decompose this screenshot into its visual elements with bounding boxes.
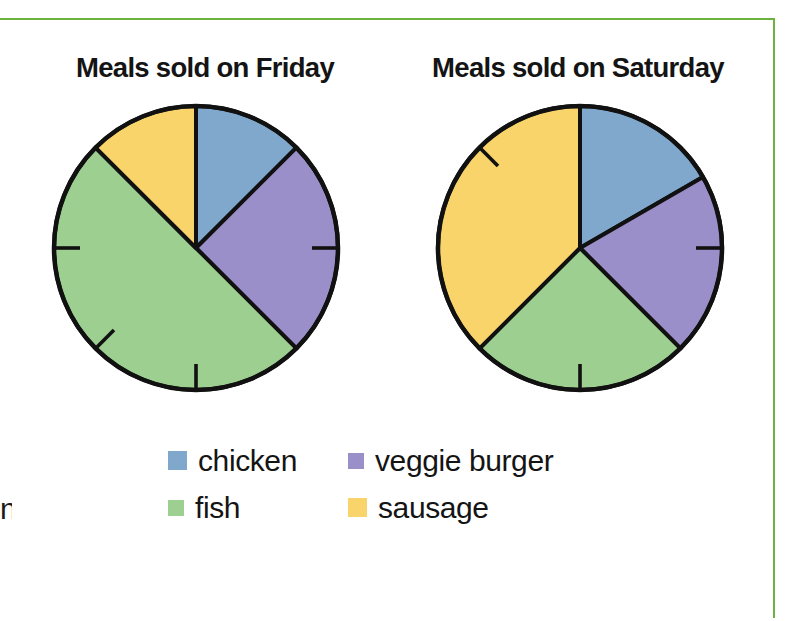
- legend-label-veggie-burger: veggie burger: [375, 444, 553, 478]
- legend-item-fish: fish: [168, 491, 348, 525]
- legend-row: fish sausage: [168, 484, 588, 531]
- legend-swatch-sausage: [348, 498, 367, 517]
- legend-label-chicken: chicken: [198, 444, 297, 478]
- chart-titles: Meals sold on Friday Meals sold on Satur…: [0, 52, 790, 94]
- chart-title-friday: Meals sold on Friday: [40, 52, 370, 84]
- pie-chart-friday-svg: [46, 98, 346, 398]
- legend-swatch-veggie-burger: [348, 453, 364, 469]
- legend-swatch-fish: [168, 500, 184, 516]
- pie-chart-saturday: [430, 98, 730, 398]
- pie-chart-saturday-svg: [430, 98, 730, 398]
- legend-label-fish: fish: [195, 491, 240, 525]
- legend: chicken veggie burger fish sausage: [168, 437, 588, 531]
- legend-swatch-chicken: [168, 451, 187, 470]
- legend-label-sausage: sausage: [378, 491, 489, 525]
- legend-row: chicken veggie burger: [168, 437, 588, 484]
- legend-item-sausage: sausage: [348, 491, 489, 525]
- legend-item-chicken: chicken: [168, 444, 348, 478]
- pie-chart-friday: [46, 98, 346, 398]
- legend-item-veggie-burger: veggie burger: [348, 444, 553, 478]
- page-edge-text-remnant: n: [0, 492, 12, 526]
- chart-title-saturday: Meals sold on Saturday: [382, 52, 774, 84]
